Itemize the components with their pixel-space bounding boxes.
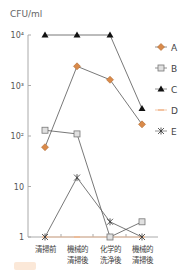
y-tick-label: 10³ [11,82,24,91]
x-tick-label: 機械的 [67,244,88,254]
y-tick-label: 10² [11,132,24,141]
x-tick-label: 機械的 [132,244,153,254]
svg-text:D: D [171,106,178,116]
series-c [42,32,146,112]
y-tick-label: 10⁴ [11,31,24,40]
x-tick-label: 清掃後 [132,255,154,265]
svg-text:A: A [171,43,178,53]
y-tick-label: 10 [14,183,24,192]
line-chart: 10⁴10³10²101清掃前機械的清掃後化学的洗浄後機械的清掃後ABCDE [0,0,188,278]
legend-item-c: C [155,85,177,95]
x-tick-label: 清掃前 [35,244,57,254]
decorative-swatch [14,262,36,270]
x-tick-label: 化学的 [100,244,121,254]
series-b [42,127,145,240]
series-a [42,63,146,151]
svg-text:C: C [171,85,177,95]
series-e [42,174,145,240]
legend-item-e: E [155,127,177,137]
legend-item-b: B [155,64,177,74]
x-tick-label: 清掃後 [67,255,89,265]
legend-item-d: D [155,106,178,116]
y-tick-label: 1 [19,233,24,242]
svg-text:E: E [171,127,177,137]
svg-text:B: B [171,64,177,74]
legend-item-a: A [155,43,178,53]
x-tick-label: 洗浄後 [100,255,122,265]
